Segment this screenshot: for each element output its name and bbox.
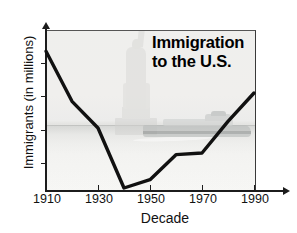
chart-title-line1: Immigration xyxy=(152,33,244,51)
x-tick-label-1930: 1930 xyxy=(79,193,119,206)
statue-body xyxy=(126,47,146,109)
y-axis-arrow xyxy=(42,22,50,29)
x-tick-1970 xyxy=(202,185,203,191)
x-tick-1950 xyxy=(150,185,151,191)
x-tick-label-1950: 1950 xyxy=(131,193,171,206)
x-tick-1990 xyxy=(254,185,255,191)
x-axis-title: Decade xyxy=(45,210,285,226)
y-axis-title: Immigrants (in millions) xyxy=(21,18,36,188)
y-tick-6 xyxy=(41,96,46,97)
x-tick-1910 xyxy=(46,185,47,191)
chart-title: Immigration to the U.S. xyxy=(152,33,282,72)
y-tick-2 xyxy=(41,163,46,164)
x-tick-label-1910: 1910 xyxy=(27,193,67,206)
statue-head xyxy=(132,39,141,49)
y-tick-4 xyxy=(41,130,46,131)
y-axis-line xyxy=(45,27,47,192)
x-tick-label-1990: 1990 xyxy=(235,193,275,206)
liner-funnel xyxy=(211,111,226,116)
chart-title-line2: to the U.S. xyxy=(152,52,282,71)
x-tick-label-1970: 1970 xyxy=(183,193,223,206)
immigration-chart-figure: Immigration to the U.S. 8 6 4 2 1910 193… xyxy=(0,0,297,233)
ocean-liner-icon xyxy=(143,111,251,141)
liner-stripe xyxy=(143,131,251,134)
x-axis-arrow xyxy=(283,187,290,195)
x-tick-1930 xyxy=(98,185,99,191)
y-tick-8 xyxy=(41,63,46,64)
